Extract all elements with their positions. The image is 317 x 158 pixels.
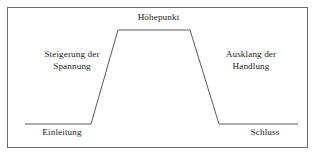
label-ausklang-der-handlung: Ausklang der Handlung: [205, 49, 297, 72]
dramatic-arc-figure: Höhepunkt Steigerung der Spannung Auskla…: [0, 0, 317, 158]
label-einleitung: Einleitung: [22, 127, 102, 139]
label-schluss: Schluss: [228, 127, 302, 139]
label-steigerung-der-spannung: Steigerung der Spannung: [22, 49, 122, 72]
label-hoehepunkt: Höhepunkt: [0, 12, 317, 24]
